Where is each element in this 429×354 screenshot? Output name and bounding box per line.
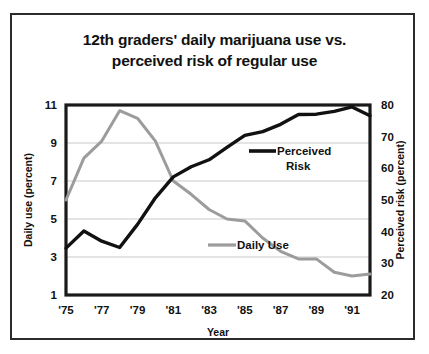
- x-axis-tick: '89: [309, 304, 325, 316]
- x-axis-tick: '77: [94, 304, 110, 316]
- grid-lines: [66, 105, 370, 257]
- x-axis-tick: '79: [130, 304, 146, 316]
- y-axis-title: Daily use (percent): [22, 153, 34, 247]
- series-line: [66, 111, 370, 276]
- legend-label-perceived-risk-line2: Risk: [286, 160, 311, 172]
- y2-axis-tick: 30: [381, 257, 394, 269]
- y-axis-tick-labels: 1357911: [45, 99, 58, 301]
- legend-label-daily-use: Daily Use: [237, 239, 289, 251]
- x-axis-tick: '87: [273, 304, 289, 316]
- legend-label-perceived-risk-line1: Perceived: [277, 145, 331, 157]
- y-axis-tick: 5: [51, 213, 58, 225]
- line-chart: 1357911 20304050607080 '75'77'79'81'83'8…: [12, 15, 417, 342]
- series-lines: [66, 107, 370, 276]
- y2-axis-tick: 70: [381, 131, 394, 143]
- y2-axis-title: Perceived risk (percent): [394, 140, 406, 259]
- y-axis-tick: 1: [51, 289, 58, 301]
- x-axis-tick: '91: [344, 304, 360, 316]
- x-axis-tick-labels: '75'77'79'81'83'85'87'89'91: [58, 304, 360, 316]
- y2-axis-tick: 80: [381, 99, 394, 111]
- figure-panel: 12th graders' daily marijuana use vs. pe…: [10, 13, 415, 340]
- chart-legend: PerceivedRiskDaily Use: [208, 145, 331, 251]
- x-axis-tick: '85: [237, 304, 253, 316]
- x-axis-tick: '75: [58, 304, 74, 316]
- y-axis-tick: 7: [51, 175, 57, 187]
- y2-axis-tick: 50: [381, 194, 394, 206]
- y-axis-tick: 11: [45, 99, 58, 111]
- y2-axis-tick-labels: 20304050607080: [381, 99, 394, 301]
- y2-axis-tick: 20: [381, 289, 394, 301]
- y-axis-tick: 9: [51, 137, 57, 149]
- x-axis-tick: '81: [166, 304, 182, 316]
- y-axis-tick: 3: [51, 251, 57, 263]
- y2-axis-tick: 60: [381, 162, 394, 174]
- x-axis-title: Year: [207, 326, 229, 338]
- y2-axis-tick: 40: [381, 226, 394, 238]
- series-line: [66, 107, 370, 248]
- x-axis-tick: '83: [201, 304, 217, 316]
